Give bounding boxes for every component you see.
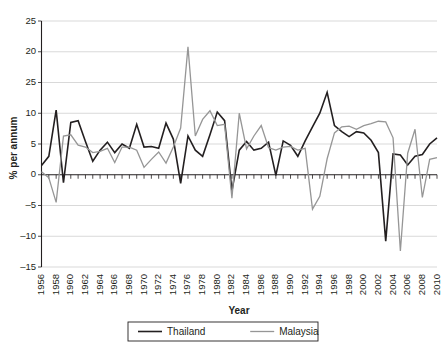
x-tick-label: 1986 [255, 274, 266, 295]
y-axis-title: % per annum [8, 117, 19, 180]
x-tick-label: 2008 [416, 274, 427, 295]
y-tick-label: 10 [25, 107, 36, 118]
legend-label-thailand: Thailand [167, 326, 205, 337]
y-tick-label: 0 [31, 168, 36, 179]
x-tick-label: 1962 [79, 274, 90, 295]
x-tick-label: 1984 [240, 274, 251, 295]
x-tick-label: 1976 [181, 274, 192, 295]
y-tick-label: –10 [20, 230, 36, 241]
x-tick-label: 1978 [196, 274, 207, 295]
x-tick-label: 2010 [431, 274, 442, 295]
x-tick-label: 1980 [211, 274, 222, 295]
legend-label-malaysia: Malaysia [279, 326, 319, 337]
y-tick-label: –15 [20, 261, 36, 272]
growth-rate-line-chart: 2520251050–5–10–15 195619581960196219641… [0, 0, 448, 348]
x-tick-label: 1992 [299, 274, 310, 295]
x-tick-label: 1994 [313, 274, 324, 295]
x-axis-title: Year [228, 305, 249, 316]
x-tick-label: 2004 [387, 274, 398, 295]
chart-canvas: 2520251050–5–10–15 195619581960196219641… [0, 0, 448, 348]
x-tick-label: 1958 [50, 274, 61, 295]
x-tick-label: 1972 [152, 274, 163, 295]
chart-legend: ThailandMalaysia [128, 322, 319, 341]
x-tick-label: 2000 [357, 274, 368, 295]
x-tick-label: 1964 [94, 274, 105, 295]
x-tick-label: 1990 [284, 274, 295, 295]
x-tick-label: 1970 [138, 274, 149, 295]
x-tick-label: 1982 [225, 274, 236, 295]
x-tick-label: 1974 [167, 274, 178, 295]
x-tick-label: 1998 [343, 274, 354, 295]
y-tick-label: –5 [25, 199, 36, 210]
x-tick-label: 2006 [401, 274, 412, 295]
x-tick-label: 1968 [123, 274, 134, 295]
x-tick-label: 1966 [108, 274, 119, 295]
y-tick-label: 20 [25, 45, 36, 56]
x-tick-label: 1956 [35, 274, 46, 295]
y-tick-label: 25 [25, 15, 36, 26]
x-tick-label: 2002 [372, 274, 383, 295]
y-tick-label: 25 [25, 76, 36, 87]
y-tick-label: 5 [31, 138, 36, 149]
x-tick-label: 1988 [269, 274, 280, 295]
x-tick-label: 1996 [328, 274, 339, 295]
x-tick-label: 1960 [64, 274, 75, 295]
